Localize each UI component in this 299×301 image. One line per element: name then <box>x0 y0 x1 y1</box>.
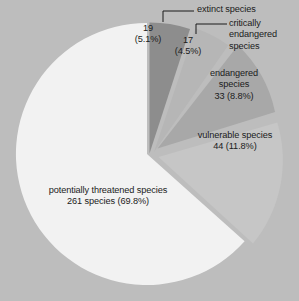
slice-label-vulnerable: vulnerable species 44 (11.8%) <box>176 130 294 153</box>
pie-chart-figure: 19 (5.1%) extinct species 17 (4.5%) crit… <box>0 0 299 301</box>
slice-value-label-critically-endangered: 17 (4.5%) <box>162 35 214 58</box>
leader-line-extinct <box>163 11 194 22</box>
slice-label-potentially-threatened: potentially threatened species 261 speci… <box>18 185 198 208</box>
slice-name-label-extinct: extinct species <box>197 4 297 15</box>
slice-name-label-critically-endangered: critically endangered species <box>229 18 297 52</box>
slice-label-endangered: endangered species 33 (8.8%) <box>186 68 282 102</box>
